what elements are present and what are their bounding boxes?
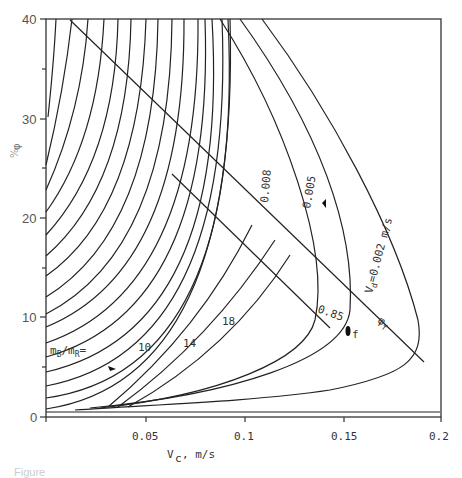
y-axis-phi: φ [11,143,22,150]
y-tick-labels: 40 30 20 10 0 [22,12,37,425]
label-ratio-18: 18 [222,315,235,328]
label-ratio: mB/mR= [50,344,87,359]
curve-ratio-18 [128,255,290,407]
x-tick-005: 0.05 [132,430,159,443]
curve-family [46,19,440,412]
svg-text:c: c [175,452,182,465]
label-vd-0008: 0.008 [258,169,274,203]
y-axis-title: % φ [9,143,22,158]
svg-text:, m/s: , m/s [182,448,215,461]
label-ratio-10: 10 [138,341,151,354]
x-axis [46,417,441,422]
y-tick-30: 30 [22,112,36,127]
label-ratio-14: 14 [183,337,197,350]
x-tick-labels: 0.05 0.1 0.15 0.2 [132,430,449,443]
x-tick-02: 0.2 [429,430,449,443]
label-f: f [352,328,359,341]
label-085: 0.85 [316,303,345,324]
reference-lines [70,20,424,362]
label-vd-0005: 0.005 [300,175,319,210]
label-vd-0002: Vd=0.002 m/s [362,216,397,295]
x-tick-015: 0.15 [331,430,358,443]
arrow-marker-right [322,199,326,208]
svg-text:V: V [167,448,174,461]
annotations: Vd=0.002 m/s 0.005 0.008 0.85 φf f mB/mR… [50,169,397,359]
x-axis-title: V c , m/s [167,448,215,465]
y-tick-40: 40 [22,12,36,27]
point-f [346,326,351,336]
x-tick-01: 0.1 [234,430,254,443]
y-axis [40,19,46,417]
ratio-curves [108,225,290,407]
y-tick-0: 0 [30,410,37,425]
phi-f-line [70,20,424,362]
figure-caption: Figure [14,466,45,478]
y-tick-20: 20 [22,211,36,226]
y-tick-10: 10 [22,310,36,325]
curve-ratio-14 [118,240,275,407]
arrow-marker-left [108,366,116,371]
